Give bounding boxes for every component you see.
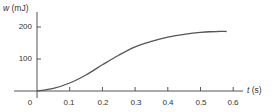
x-tick-label-0.6: 0.6	[223, 98, 243, 107]
x-tick-label-0: 0	[20, 98, 40, 107]
x-tick-label-0.3: 0.3	[126, 98, 146, 107]
energy-vs-time-chart: w (mJ) 200 100 0 0.1 0.2 0.3 0.4 0.5 0.6…	[0, 0, 272, 112]
y-axis-unit: (mJ)	[12, 3, 29, 13]
data-curve	[37, 31, 227, 91]
y-axis-label: w (mJ)	[3, 3, 29, 13]
y-tick-label-100: 100	[4, 54, 32, 63]
y-tick-label-200: 200	[4, 22, 32, 31]
x-tick-label-0.2: 0.2	[93, 98, 113, 107]
plot-area	[0, 0, 272, 112]
x-axis-variable: t	[247, 85, 249, 95]
y-axis-variable: w	[3, 3, 9, 13]
x-ticks	[70, 87, 234, 91]
x-axis-label: t (s)	[247, 85, 262, 95]
x-tick-label-0.1: 0.1	[59, 98, 79, 107]
x-tick-label-0.4: 0.4	[158, 98, 178, 107]
x-tick-label-0.5: 0.5	[191, 98, 211, 107]
x-axis-unit: (s)	[252, 85, 262, 95]
